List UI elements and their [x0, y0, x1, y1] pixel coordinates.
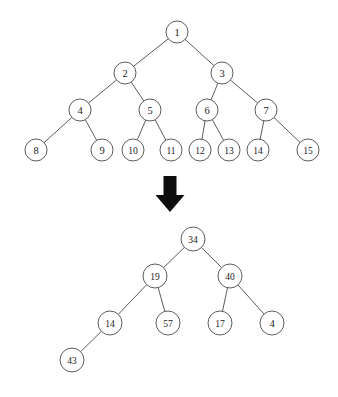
node-label: 12 [195, 146, 205, 156]
tree-edge [201, 247, 221, 267]
tree-edge [212, 120, 223, 141]
tree-node-8: 8 [25, 139, 47, 161]
tree-node-40: 40 [218, 264, 242, 288]
downward-arrow-glyph [156, 176, 185, 212]
bottom-tree-edges [81, 247, 264, 351]
tree-edge [223, 288, 228, 312]
node-label: 3 [219, 68, 224, 79]
node-label: 10 [128, 146, 138, 156]
node-label: 6 [204, 105, 209, 116]
tree-edge [185, 39, 214, 65]
tree-node-14: 14 [98, 311, 122, 335]
tree-edge [202, 121, 205, 139]
node-label: 34 [188, 235, 198, 245]
tree-node-43: 43 [60, 348, 84, 372]
tree-node-13: 13 [218, 139, 240, 161]
tree-edge [131, 82, 144, 101]
tree-node-57: 57 [156, 311, 180, 335]
tree-node-4: 4 [69, 99, 91, 121]
node-label: 43 [67, 356, 77, 366]
tree-node-9: 9 [91, 139, 113, 161]
node-label: 57 [163, 319, 173, 329]
tree-edge [89, 80, 117, 103]
tree-node-5: 5 [139, 99, 161, 121]
node-label: 9 [99, 145, 104, 156]
node-label: 7 [263, 105, 268, 116]
node-label: 13 [224, 146, 234, 156]
downward-arrow-icon [156, 176, 185, 212]
tree-node-17: 17 [208, 311, 232, 335]
tree-edge [81, 331, 102, 351]
node-label: 15 [303, 146, 313, 156]
tree-edge [155, 120, 166, 141]
tree-node-12: 12 [189, 139, 211, 161]
tree-edge [134, 39, 169, 66]
node-label: 11 [166, 146, 175, 156]
tree-edge [274, 118, 300, 143]
tree-edge [158, 288, 165, 312]
tree-node-14: 14 [247, 139, 269, 161]
node-label: 14 [253, 146, 263, 156]
tree-edge [260, 121, 264, 139]
tree-node-34: 34 [181, 227, 205, 251]
tree-edge [238, 285, 264, 314]
tree-node-6: 6 [196, 99, 218, 121]
tree-node-10: 10 [122, 139, 144, 161]
tree-edge [44, 117, 72, 142]
tree-diagram-canvas: 123456789101112131415 341940145717443 [0, 0, 338, 397]
tree-node-4: 4 [260, 311, 284, 335]
node-label: 40 [225, 272, 235, 282]
top-tree-edges [44, 39, 300, 143]
tree-edge [85, 120, 96, 141]
tree-node-19: 19 [143, 264, 167, 288]
node-label: 5 [147, 105, 152, 116]
node-label: 2 [122, 68, 127, 79]
node-label: 14 [105, 319, 115, 329]
tree-node-3: 3 [211, 62, 233, 84]
tree-node-1: 1 [166, 21, 188, 43]
node-label: 8 [33, 145, 38, 156]
tree-edge [211, 83, 218, 100]
tree-node-15: 15 [297, 139, 319, 161]
node-label: 17 [215, 319, 225, 329]
top-tree-nodes: 123456789101112131415 [25, 21, 319, 161]
tree-node-2: 2 [114, 62, 136, 84]
tree-edge [230, 80, 257, 103]
tree-edge [164, 247, 185, 267]
tree-edge [137, 120, 145, 140]
tree-node-11: 11 [160, 139, 182, 161]
node-label: 4 [77, 105, 83, 116]
tree-node-7: 7 [255, 99, 277, 121]
node-label: 19 [150, 272, 160, 282]
node-label: 4 [269, 318, 275, 329]
node-label: 1 [174, 27, 179, 38]
tree-edge [118, 285, 146, 315]
